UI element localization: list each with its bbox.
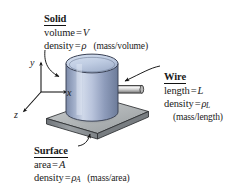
solid-density-name: density (44, 40, 74, 51)
wire-label-block: Wire length=L density=ρL (mass/length) (164, 66, 223, 122)
surface-density-line: density=ρA(mass/area) (34, 172, 129, 185)
wire-length-line: length=L (164, 85, 223, 96)
surface-density-subscript: A (76, 175, 80, 184)
wire-heading: Wire (164, 72, 186, 84)
axis-label-x: x (67, 87, 71, 98)
solid-leader-line (45, 50, 59, 77)
axis-label-y: y (30, 57, 34, 68)
wire-units: (mass/length) (173, 112, 223, 122)
wire-length-value: L (197, 85, 203, 96)
surface-area-eq: = (51, 159, 59, 170)
surface-area-name: area (34, 159, 51, 170)
surface-label-block: Surface area=A density=ρA(mass/area) (34, 140, 129, 184)
solid-volume-eq: = (75, 27, 83, 38)
wire-density-line: density=ρL (164, 98, 223, 111)
solid-label-block: Solid volume=V density=ρ(mass/volume) (44, 8, 148, 51)
wire-length-name: length (164, 85, 190, 96)
solid-heading: Solid (44, 14, 66, 26)
solid-density-line: density=ρ(mass/volume) (44, 40, 148, 51)
solid-volume-line: volume=V (44, 27, 148, 38)
axis-label-z: z (14, 109, 18, 120)
solid-cylinder (66, 54, 118, 121)
solid-units: (mass/volume) (93, 41, 148, 51)
wire-leader-line (125, 66, 160, 81)
surface-area-line: area=A (34, 159, 129, 170)
surface-heading: Surface (34, 146, 68, 158)
figure-canvas: y x z Solid volume=V density=ρ(mass/volu… (0, 0, 232, 186)
wire-density-name: density (164, 98, 194, 109)
solid-volume-name: volume (44, 27, 75, 38)
surface-units: (mass/area) (87, 173, 129, 183)
surface-area-value: A (59, 159, 65, 170)
surface-density-name: density (34, 172, 64, 183)
coordinate-axes (23, 62, 68, 113)
wire-density-subscript: L (206, 101, 210, 110)
solid-volume-value: V (83, 27, 89, 38)
solid-density-value: ρ (81, 40, 86, 51)
